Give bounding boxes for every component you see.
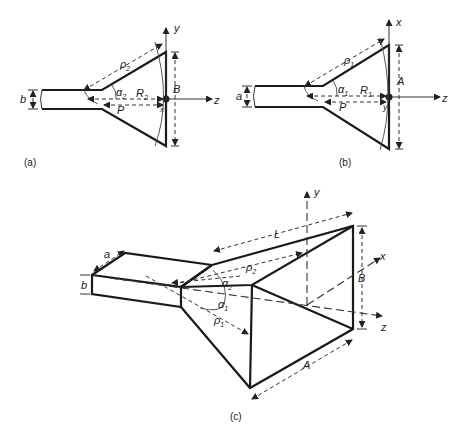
label-R1-b: R1	[360, 84, 372, 98]
label-alpha2-a: α2	[116, 86, 126, 100]
label-a-c: a	[104, 248, 110, 260]
figure-c-pyramidal-horn: y x z a b L ρ2 ρ1 α2 α1 B A (c)	[80, 186, 387, 422]
x-axis-c	[307, 258, 380, 305]
label-R2-a: R2	[136, 87, 148, 101]
horn-diag-edge	[252, 285, 353, 329]
caption-b: (b)	[339, 157, 351, 168]
aperture-arc-b	[380, 38, 388, 150]
waveguide-break-b	[254, 86, 256, 107]
horn-front-vertical	[250, 285, 252, 388]
label-z-b: z	[441, 92, 448, 104]
figure-a-e-plane-horn: b y z x ρ2 α2 R2 P B (a)	[20, 22, 220, 168]
z-axis-c	[110, 278, 382, 316]
label-alpha1-c: α1	[218, 298, 228, 312]
label-A-b: A	[396, 75, 404, 87]
horn-outer-edges	[181, 226, 353, 388]
label-x-c: x	[379, 250, 386, 262]
label-z-c: z	[380, 321, 387, 333]
caption-c: (c)	[230, 411, 242, 422]
label-a-b: a	[236, 90, 242, 102]
alpha1-arc-b	[333, 80, 337, 96]
label-L-c: L	[274, 228, 280, 240]
horn-top-inner	[181, 226, 353, 287]
waveguide-front-face	[92, 275, 181, 307]
label-A-c: A	[302, 359, 310, 371]
label-rho1-c: ρ1	[213, 314, 224, 328]
label-P-b: P	[339, 101, 347, 113]
label-B-c: B	[358, 272, 365, 284]
waveguide-break-a	[41, 90, 43, 109]
label-y-c: y	[313, 186, 321, 198]
origin-b	[386, 94, 393, 101]
label-rho1-b: ρ1	[343, 54, 354, 68]
label-alpha1-b: α1	[338, 83, 348, 97]
label-alpha2-c: α2	[222, 277, 232, 291]
label-P-a: P	[117, 104, 125, 116]
dim-A-c	[252, 340, 352, 399]
label-x-a: x	[159, 105, 165, 114]
label-rho2-a: ρ2	[119, 58, 130, 72]
label-y-a: y	[173, 22, 181, 34]
label-rho2-c: ρ2	[245, 261, 256, 275]
horn-antenna-figure: b y z x ρ2 α2 R2 P B (a)	[0, 0, 467, 434]
label-x-b: x	[395, 16, 402, 28]
figure-b-h-plane-horn: a x z y ρ1 α1 R1 P A (b)	[236, 16, 448, 168]
label-b-a: b	[20, 93, 26, 105]
caption-a: (a)	[24, 157, 36, 168]
label-z-a: z	[213, 94, 220, 106]
label-b-c: b	[81, 279, 87, 291]
label-B-a: B	[173, 83, 180, 95]
